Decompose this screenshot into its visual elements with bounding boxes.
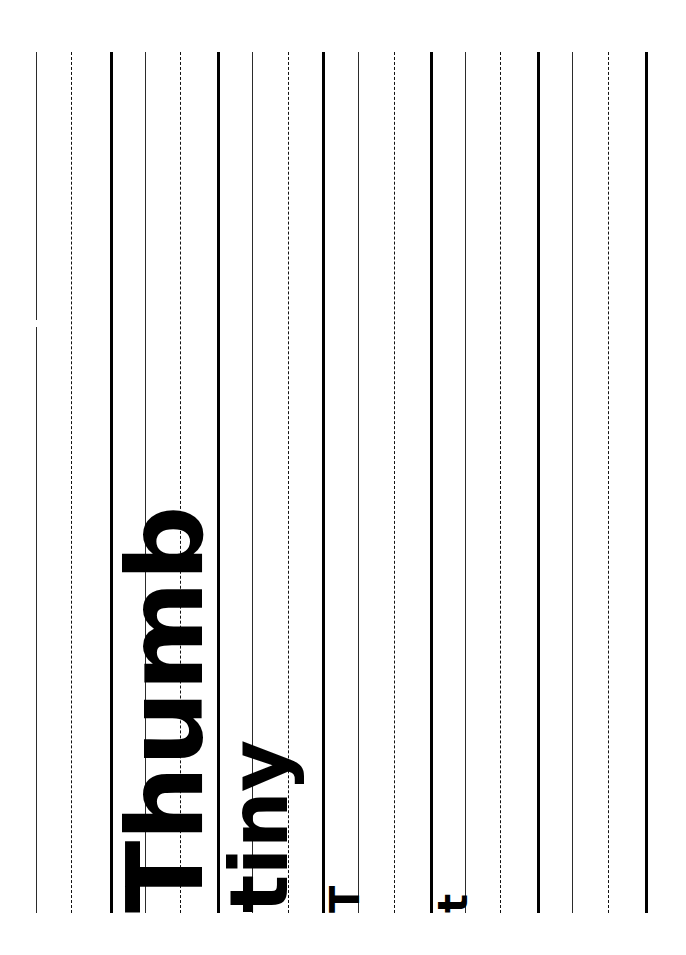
specimen-sheet: Thumb tiny T t: [0, 0, 686, 955]
ascender-line-group-4: [358, 52, 359, 913]
baseline-group-5: [537, 52, 540, 913]
midline-group-5: [500, 52, 501, 913]
ascender-line-group-6: [572, 52, 573, 913]
ascender-line-group-1: [36, 52, 37, 913]
ascender-line-group-5: [465, 52, 466, 913]
baseline-group-4: [430, 52, 433, 913]
specimen-word-thumb: Thumb: [113, 506, 219, 913]
baseline-group-6: [645, 52, 648, 913]
midline-group-4: [394, 52, 395, 913]
midline-group-6: [608, 52, 609, 913]
specimen-letter-t-capital: T: [325, 886, 365, 913]
specimen-letter-t-lowercase: t: [433, 894, 473, 913]
specimen-word-tiny: tiny: [220, 740, 300, 913]
midline-group-1: [71, 52, 72, 913]
baseline-group-3: [322, 52, 325, 913]
